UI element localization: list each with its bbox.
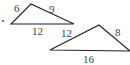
large-triangle: 12 8 16 — [50, 25, 130, 65]
small-triangle-left-side-label: 6 — [14, 2, 20, 14]
large-triangle-right-side-label: 8 — [115, 26, 121, 38]
large-triangle-base-label: 16 — [83, 53, 95, 65]
large-triangle-left-side-label: 12 — [61, 27, 72, 39]
small-triangle-base-label: 12 — [32, 25, 43, 37]
small-triangle-right-side-label: 9 — [49, 3, 55, 15]
similar-triangles-diagram: 6 9 12 12 8 16 — [0, 0, 130, 65]
bullet-dot — [2, 20, 4, 22]
